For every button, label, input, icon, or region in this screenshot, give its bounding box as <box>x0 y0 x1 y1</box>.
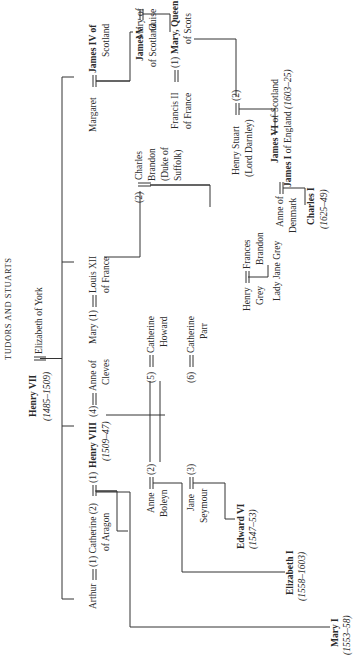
person-charles-i: Charles I <box>306 187 317 225</box>
person-charles-brandon-line3: (Duke of <box>160 147 171 181</box>
james-i-rest: of England <box>283 109 293 156</box>
person-jane-seymour-line2: Seymour <box>199 489 210 523</box>
person-anne-of-cleves-line2: Cleves <box>101 359 112 385</box>
person-charles-brandon-line4: Suffolk) <box>173 150 184 182</box>
person-mary-i: Mary I <box>330 618 341 647</box>
darnley-marker: (2) <box>231 90 242 101</box>
person-frances-brandon-line2: Brandon <box>255 232 266 265</box>
person-anne-boleyn: Anne <box>146 492 157 513</box>
person-catherine-howard-line2: Howard <box>159 316 170 347</box>
henry-viii-marker-1: (1) <box>88 472 99 483</box>
person-arthur: Arthur <box>88 584 99 609</box>
person-henry-grey-line2: Grey <box>255 286 266 305</box>
brandon-marker: (2) <box>134 192 145 203</box>
family-tree-diagram: TUDORS AND STUARTS <box>0 0 354 657</box>
person-james-i: James I of England (1603–25) <box>283 69 294 187</box>
person-anne-boleyn-line2: Boleyn <box>159 490 170 517</box>
person-james-iv: James IV of <box>88 25 99 73</box>
reign-edward-vi: (1547–53) <box>248 509 259 549</box>
person-mary-of-guise-line2: Guise <box>148 9 159 31</box>
person-charles-brandon: Charles <box>134 151 145 180</box>
person-margaret: Margaret <box>88 97 99 132</box>
person-anne-of-denmark-line2: Denmark <box>288 198 299 233</box>
person-james-vi: James VI of Scotland <box>270 79 281 163</box>
person-francis-ii: Francis II <box>170 92 181 129</box>
person-elizabeth-i: Elizabeth I <box>285 550 296 595</box>
person-louis-xii-line2: of France <box>101 257 112 293</box>
person-henry-stuart-line2: (Lord Darnley) <box>244 119 255 177</box>
person-jane-seymour: Jane <box>186 494 197 511</box>
person-catherine-of-aragon-line2: of Aragon <box>101 513 112 551</box>
person-mary-tudor: Mary (1) <box>88 310 99 344</box>
person-james-iv-line2: Scotland <box>101 24 112 57</box>
james-vi-bold: James VI <box>270 125 280 163</box>
person-lady-jane-grey: Lady Jane Grey <box>272 241 283 301</box>
seymour-marker: (3) <box>186 464 197 475</box>
person-louis-xii: Louis XII <box>88 256 99 293</box>
person-anne-of-denmark: Anne of <box>275 196 286 227</box>
james-i-bold: James I <box>283 156 293 187</box>
reign-henry-vii: (1485–1509) <box>42 372 53 421</box>
howard-marker: (5) <box>146 372 157 383</box>
person-henry-grey: Henry <box>242 287 253 311</box>
boleyn-marker: (2) <box>146 464 157 475</box>
person-charles-brandon-line2: Brandon <box>147 148 158 181</box>
mary-queen-marker: (1) <box>170 57 181 68</box>
person-edward-vi: Edward VI <box>236 504 247 550</box>
reign-henry-viii: (1509–47) <box>101 421 112 461</box>
person-henry-vii: Henry VII <box>28 375 39 417</box>
person-francis-ii-line2: of France <box>183 93 194 129</box>
person-henry-stuart: Henry Stuart <box>231 126 242 175</box>
person-mary-of-guise: Mary of <box>135 8 146 39</box>
james-vi-rest: of Scotland <box>270 79 280 125</box>
reign-james-i: (1603–25) <box>283 69 293 109</box>
person-catherine-of-aragon: (1) Catherine (2) <box>88 503 99 567</box>
reign-mary-i: (1553–58) <box>342 615 353 655</box>
person-catherine-parr: Catherine <box>186 316 197 353</box>
person-mary-queen-of-scots: Mary, Queen <box>170 1 181 54</box>
reign-charles-i: (1625–49) <box>319 189 330 229</box>
person-catherine-parr-line2: Parr <box>199 323 210 339</box>
person-mary-queen-of-scots-line2: of Scots <box>183 13 194 44</box>
parr-marker: (6) <box>186 372 197 383</box>
henry-viii-marker-4: (4) <box>88 406 99 417</box>
person-frances-brandon: Frances <box>242 239 253 269</box>
person-henry-viii: Henry VIII <box>88 422 99 468</box>
reign-elizabeth-i: (1558–1603) <box>297 552 308 601</box>
person-elizabeth-of-york: Elizabeth of York <box>34 287 45 354</box>
person-anne-of-cleves: Anne of <box>88 360 99 391</box>
person-catherine-howard: Catherine <box>146 316 157 353</box>
